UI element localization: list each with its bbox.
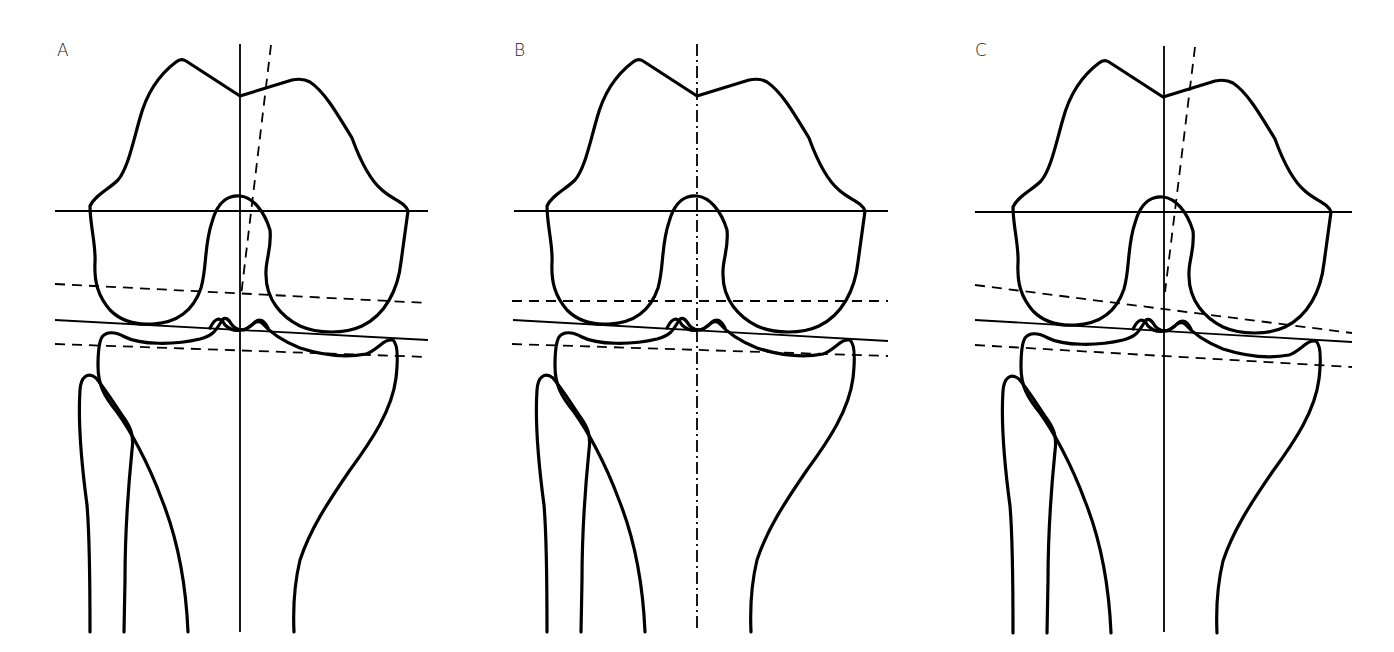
panel-label-c: C <box>975 40 987 60</box>
panel-label-b: B <box>514 40 525 60</box>
panel-b: B <box>512 40 888 632</box>
panel-c: C <box>975 40 1352 633</box>
panel-label-a: A <box>57 40 69 60</box>
joint-line-a <box>55 320 428 340</box>
knee-bones-c <box>1002 61 1331 633</box>
knee-alignment-figure: A B C <box>0 0 1394 652</box>
panel-a: A <box>55 40 428 632</box>
joint-line-b <box>513 320 888 341</box>
